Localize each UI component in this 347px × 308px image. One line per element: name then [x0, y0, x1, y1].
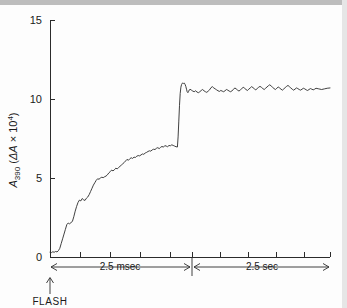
y-axis-tick-labels: 051015: [30, 14, 42, 263]
y-tick-label: 15: [30, 14, 42, 26]
kinetics-plot: 051015 2.5 msec 2.5 sec FLASH A390 (ΔA ×…: [0, 0, 347, 308]
y-title-times: × 10: [7, 121, 19, 146]
figure-container: 051015 2.5 msec 2.5 sec FLASH A390 (ΔA ×…: [0, 0, 347, 308]
flash-marker-arrow: [47, 278, 54, 295]
y-title-paren-close: ): [7, 112, 19, 116]
segment-2-label: 2.5 sec: [246, 261, 278, 272]
segment-1-label: 2.5 msec: [100, 261, 141, 272]
y-title-subscript: 390: [13, 166, 22, 180]
y-tick-label: 5: [36, 172, 42, 184]
y-axis-title: A390 (ΔA × 104): [6, 112, 22, 188]
y-axis-ticks: [50, 20, 55, 257]
y-tick-label: 10: [30, 93, 42, 105]
data-trace-a390: [50, 83, 330, 253]
x-axis-ticks: [50, 252, 330, 257]
y-tick-label: 0: [36, 251, 42, 263]
y-title-delta: ΔA: [7, 145, 19, 161]
flash-label: FLASH: [32, 296, 67, 307]
y-title-symbol: A: [7, 180, 19, 188]
